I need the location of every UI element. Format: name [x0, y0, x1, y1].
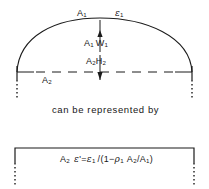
- label-a1-w1: A1W1: [84, 39, 108, 48]
- arrow-down-head: [97, 72, 102, 80]
- caption-represented-by: can be represented by: [52, 105, 159, 115]
- formula-expression: A2ε'=ε1/(1−ρ1A2/A1): [60, 155, 153, 164]
- arrow-up-head: [97, 30, 102, 37]
- label-area-2: A2: [42, 76, 52, 85]
- label-a2-h2: A2H2: [86, 57, 106, 66]
- label-emissivity-1: ε1: [115, 9, 124, 18]
- label-area-1: A1: [77, 9, 87, 18]
